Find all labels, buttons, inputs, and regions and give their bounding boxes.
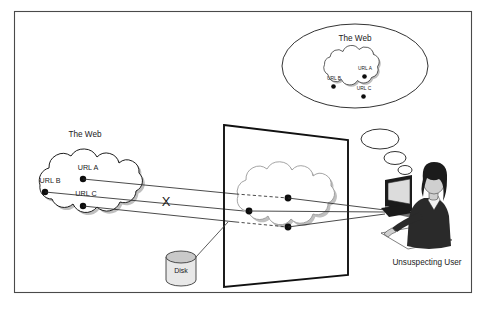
source-url-a-label: URL A	[78, 163, 99, 172]
web-spoofing-diagram: The Web URL A URL B URL C The Web U	[0, 0, 486, 313]
bubble-url-a-dot	[362, 74, 367, 79]
user-caption: Unsuspecting User	[392, 258, 461, 267]
bubble-url-c-label: URL C	[357, 86, 372, 91]
source-web-caption: The Web	[68, 130, 102, 139]
thought-bubble-trail-1	[361, 129, 399, 149]
bubble-url-a-label: URL A	[358, 66, 373, 71]
source-web-group: The Web URL A URL B URL C	[39, 130, 145, 215]
source-url-b-label: URL B	[40, 176, 61, 185]
blocked-x-marker: X	[162, 194, 171, 209]
unsuspecting-user-group: Unsuspecting User	[381, 162, 462, 267]
user-torso	[407, 198, 451, 249]
bubble-url-b-dot	[331, 84, 336, 89]
monitor-screen	[388, 179, 410, 204]
bubble-url-c-dot	[361, 94, 366, 99]
bubble-url-b-label: URL B	[327, 76, 341, 81]
figure-root: The Web URL A URL B URL C The Web U	[0, 0, 486, 313]
disk-cylinder-top	[166, 251, 196, 263]
disk-label: Disk	[174, 267, 188, 274]
disk-group: Disk	[166, 222, 228, 286]
attacker-plane-group	[224, 125, 348, 287]
thought-bubble-caption: The Web	[338, 34, 372, 43]
thought-bubble-group: The Web URL A URL B URL C	[282, 24, 428, 175]
thought-bubble-trail-2	[384, 152, 406, 165]
thought-bubble-trail-3	[398, 166, 412, 175]
